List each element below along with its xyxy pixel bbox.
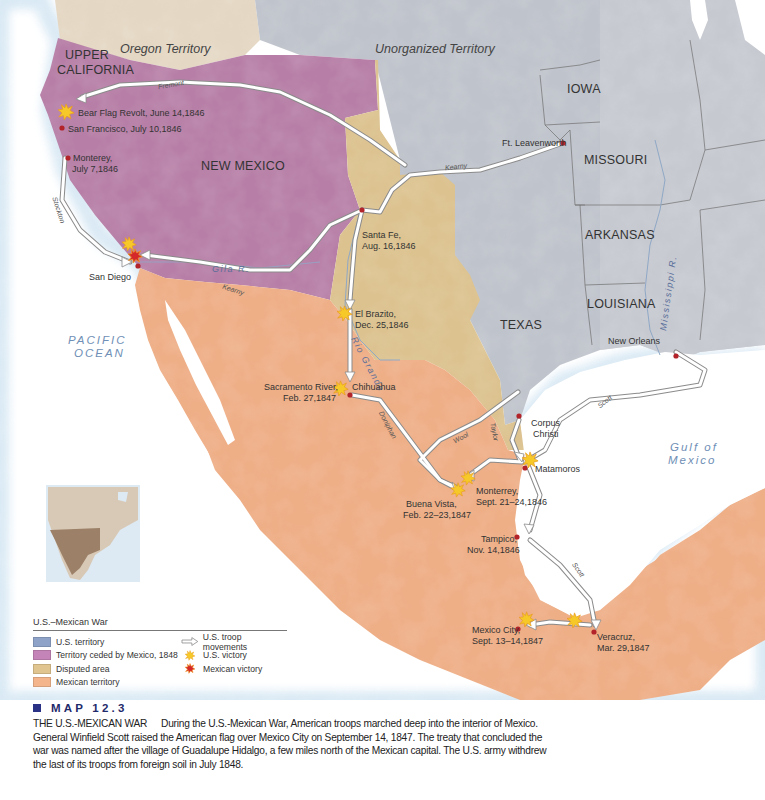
outline-arrow-icon bbox=[181, 636, 199, 647]
place-buena-vista-2: Feb. 22–23,1847 bbox=[403, 510, 471, 520]
legend-item-troop-movements: U.S. troop movements bbox=[181, 635, 287, 649]
legend-item-ceded-territory: Territory ceded by Mexico, 1848 bbox=[33, 649, 181, 663]
place-ft-leavenworth: Ft. Leavenworth bbox=[502, 138, 567, 148]
place-matamoros: Matamoros bbox=[535, 464, 580, 474]
swatch-disputed-area bbox=[33, 664, 51, 674]
place-veracruz-1: Veracruz, bbox=[597, 632, 635, 642]
place-tampico-2: Nov. 14,1846 bbox=[467, 545, 520, 555]
place-tampico-1: Tampico, bbox=[481, 534, 517, 544]
place-mexico-city-1: Mexico City, bbox=[472, 625, 520, 635]
swatch-ceded-territory bbox=[33, 650, 51, 660]
place-corpus-christi-1: Corpus bbox=[531, 418, 560, 428]
label-louisiana: LOUISIANA bbox=[587, 297, 656, 311]
place-chihuahua: Chihuahua bbox=[352, 382, 396, 392]
place-santa-fe-1: Santa Fe, bbox=[362, 230, 401, 240]
place-monterrey-2: Sept. 21–24,1846 bbox=[476, 497, 547, 507]
place-bear-flag-revolt: Bear Flag Revolt, June 14,1846 bbox=[78, 108, 205, 118]
map-legend: U.S.–Mexican War U.S. territory Territor… bbox=[33, 617, 287, 689]
legend-item-mexican-territory: Mexican territory bbox=[33, 676, 181, 690]
label-iowa: IOWA bbox=[567, 82, 601, 96]
legend-label: Disputed area bbox=[56, 664, 110, 674]
legend-label: U.S. territory bbox=[56, 637, 104, 647]
label-oregon-territory: Oregon Territory bbox=[120, 42, 211, 56]
label-missouri: MISSOURI bbox=[584, 153, 647, 167]
place-san-diego: San Diego bbox=[89, 272, 131, 282]
legend-item-us-territory: U.S. territory bbox=[33, 635, 181, 649]
place-santa-fe-2: Aug. 16,1846 bbox=[362, 241, 416, 251]
label-gila-river: Gila R. bbox=[212, 264, 250, 274]
legend-label: Territory ceded by Mexico, 1848 bbox=[56, 650, 178, 660]
map-caption: MAP 12.3 THE U.S.-MEXICAN WARDuring the … bbox=[33, 702, 733, 771]
legend-label: Mexican territory bbox=[56, 677, 120, 687]
place-el-brazito-2: Dec. 25,1846 bbox=[355, 320, 409, 330]
swatch-mexican-territory bbox=[33, 677, 51, 687]
place-monterey-2: July 7,1846 bbox=[72, 164, 118, 174]
label-upper: UPPER bbox=[65, 48, 109, 62]
place-sacramento-river-1: Sacramento River, bbox=[264, 382, 338, 392]
map-number: MAP 12.3 bbox=[33, 702, 733, 714]
red-burst-icon bbox=[181, 663, 199, 674]
label-arkansas: ARKANSAS bbox=[585, 228, 655, 242]
legend-title: U.S.–Mexican War bbox=[33, 617, 287, 631]
legend-label: U.S. victory bbox=[203, 650, 247, 660]
label-gulf-of: Gulf of bbox=[670, 441, 718, 454]
legend-label: Mexican victory bbox=[203, 664, 262, 674]
swatch-us-territory bbox=[33, 637, 51, 647]
label-ocean: OCEAN bbox=[74, 347, 125, 360]
legend-label: U.S. troop movements bbox=[203, 632, 287, 652]
legend-item-mexican-victory: Mexican victory bbox=[181, 662, 287, 676]
inset-locator-map bbox=[46, 485, 140, 582]
label-mexico-sea: Mexico bbox=[668, 454, 716, 467]
place-san-francisco: San Francisco, July 10,1846 bbox=[68, 124, 182, 134]
caption-heading: THE U.S.-MEXICAN WAR bbox=[33, 718, 147, 729]
label-california: CALIFORNIA bbox=[57, 63, 134, 77]
label-texas: TEXAS bbox=[500, 318, 542, 332]
place-monterrey-1: Monterrey, bbox=[476, 486, 518, 496]
place-corpus-christi-2: Christi bbox=[533, 429, 559, 439]
place-sacramento-river-2: Feb. 27,1847 bbox=[283, 393, 336, 403]
caption-text: THE U.S.-MEXICAN WARDuring the U.S.-Mexi… bbox=[33, 717, 553, 771]
yellow-burst-icon bbox=[181, 650, 199, 661]
map-number-label: MAP 12.3 bbox=[51, 702, 128, 714]
square-bullet-icon bbox=[33, 704, 41, 712]
label-new-mexico: NEW MEXICO bbox=[201, 159, 285, 173]
label-unorganized-territory: Unorganized Territory bbox=[375, 42, 495, 56]
place-buena-vista-1: Buena Vista, bbox=[406, 499, 457, 509]
place-mexico-city-2: Sept. 13–14,1847 bbox=[472, 636, 543, 646]
place-veracruz-2: Mar. 29,1847 bbox=[597, 643, 650, 653]
legend-item-disputed-area: Disputed area bbox=[33, 662, 181, 676]
label-pacific: PACIFIC bbox=[68, 334, 127, 347]
place-el-brazito-1: El Brazito, bbox=[355, 309, 396, 319]
place-monterey-1: Monterey, bbox=[73, 153, 112, 163]
place-new-orleans: New Orleans bbox=[608, 336, 660, 346]
